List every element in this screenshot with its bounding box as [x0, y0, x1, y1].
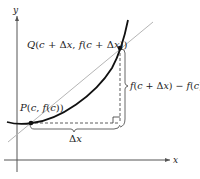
point-p-label: P(c, f(c)): [19, 102, 64, 113]
dx-label: Δx: [69, 133, 82, 144]
diagram-svg: y x Q(c + Δx, f(c + Δx)) P(c, f(c)) f(c …: [0, 0, 200, 179]
point-p: [29, 121, 34, 126]
point-q-label: Q(c + Δx, f(c + Δx)): [27, 39, 127, 50]
dy-label: f(c + Δx) − f(c): [129, 80, 200, 91]
secant-diagram: y x Q(c + Δx, f(c + Δx)) P(c, f(c)) f(c …: [0, 0, 200, 179]
dy-brace: [120, 49, 128, 127]
dx-brace: [30, 124, 120, 132]
right-angle-marker: [113, 117, 120, 123]
x-axis-label: x: [173, 155, 178, 165]
y-axis-label: y: [12, 5, 19, 15]
